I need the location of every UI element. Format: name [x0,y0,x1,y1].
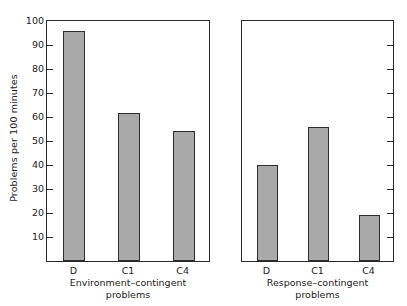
y-axis-tick [387,69,393,70]
x-tick-label: D [70,265,77,276]
y-axis-tick [47,237,53,238]
x-tick-label: C4 [362,265,375,276]
bar [118,113,140,261]
bar [308,127,328,261]
panel-environment-contingent [46,20,210,262]
bar [173,131,195,261]
y-axis-tick [387,237,393,238]
y-axis-tick [47,165,53,166]
y-axis-tick [387,189,393,190]
panel-response-contingent [241,20,394,262]
x-tick-label: C1 [311,265,324,276]
panel-caption-left: Environment–contingentproblems [46,277,210,300]
y-axis-tick [47,141,53,142]
plot-area-left [47,21,209,261]
panel-caption-line: problems [241,289,394,301]
panel-caption-right: Response–contingentproblems [241,277,394,300]
y-axis-title: Problems per 100 minutes [8,38,19,238]
y-axis-tick [387,141,393,142]
bar [359,215,379,261]
bar [63,31,85,261]
bar [257,165,277,261]
y-tick-label: 80 [32,63,44,74]
y-axis-tick [387,45,393,46]
y-axis-tick [47,69,53,70]
y-axis-tick [47,213,53,214]
y-axis-tick-labels: 100908070605040302010 [22,20,44,236]
y-axis-tick [387,213,393,214]
y-axis-tick [387,117,393,118]
y-tick-label: 10 [32,231,44,242]
panel-caption-line: Response–contingent [241,277,394,289]
y-axis-tick [47,189,53,190]
figure: Problems per 100 minutes 100908070605040… [0,0,407,306]
y-tick-label: 30 [32,183,44,194]
y-tick-label: 20 [32,207,44,218]
panel-caption-line: Environment–contingent [46,277,210,289]
panel-caption-line: problems [46,289,210,301]
y-tick-label: 70 [32,87,44,98]
plot-area-right [242,21,393,261]
y-tick-label: 40 [32,159,44,170]
y-axis-tick [387,93,393,94]
y-axis-tick [387,165,393,166]
x-tick-label: C1 [122,265,135,276]
y-axis-tick [47,45,53,46]
y-tick-label: 60 [32,111,44,122]
y-axis-tick [47,117,53,118]
y-tick-label: 90 [32,39,44,50]
x-tick-label: D [263,265,270,276]
y-tick-label: 100 [26,15,44,26]
y-axis-tick [47,93,53,94]
y-tick-label: 50 [32,135,44,146]
x-tick-label: C4 [176,265,189,276]
